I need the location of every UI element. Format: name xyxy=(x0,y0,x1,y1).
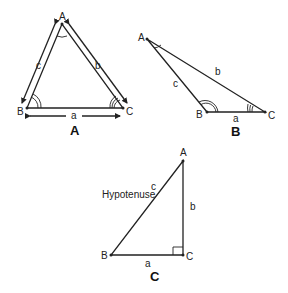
vertex-a-label: A xyxy=(138,32,145,43)
side-b-label: b xyxy=(190,201,196,212)
triangle-diagrams: A B C c b a A A B C c b a B A xyxy=(0,0,288,293)
side-a-label: a xyxy=(145,258,151,269)
caption-c: C xyxy=(150,269,160,284)
vertex-c-label: C xyxy=(126,106,133,117)
right-angle-marker xyxy=(173,247,183,255)
side-b-label: b xyxy=(215,66,221,77)
vertex-c-label: C xyxy=(186,251,193,262)
hypotenuse-label: Hypotenuse xyxy=(102,189,156,200)
vertex-c-label: C xyxy=(268,110,275,121)
side-b-label: b xyxy=(95,60,101,71)
triangle-c: A B C c Hypotenuse b a C xyxy=(101,147,196,284)
triangle-b: A B C c b a B xyxy=(138,32,275,139)
triangle-a: A B C c b a A xyxy=(17,11,133,138)
side-a-label: a xyxy=(71,110,77,121)
side-c-label: c xyxy=(173,78,178,89)
side-a-label: a xyxy=(233,113,239,124)
side-c-label: c xyxy=(36,60,41,71)
caption-b: B xyxy=(231,124,240,139)
triangle-a-shape xyxy=(27,24,123,108)
caption-a: A xyxy=(70,123,80,138)
angle-a-arc xyxy=(57,36,67,37)
vertex-a-label: A xyxy=(59,11,66,22)
triangle-c-shape xyxy=(111,161,183,255)
vertex-b-label: B xyxy=(196,109,203,120)
vertex-a-label: A xyxy=(180,147,187,158)
vertex-b-label: B xyxy=(17,106,24,117)
vertex-b-label: B xyxy=(101,250,108,261)
triangle-b-shape xyxy=(147,39,265,112)
